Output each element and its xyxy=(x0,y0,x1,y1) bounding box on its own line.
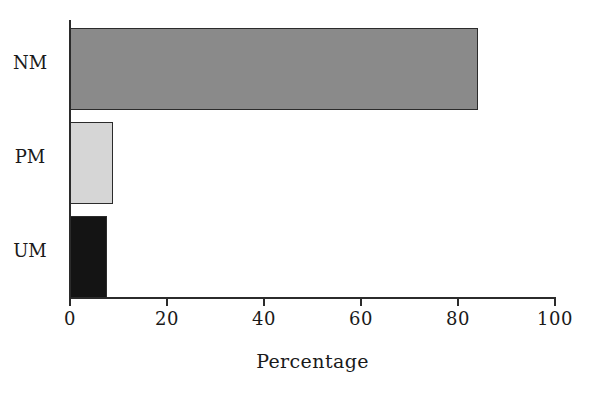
x-tick-80 xyxy=(457,299,459,306)
bar-pm xyxy=(70,122,113,204)
x-tick-20 xyxy=(166,299,168,306)
x-tick-0 xyxy=(69,299,71,306)
y-tick-label-pm: PM xyxy=(0,146,60,167)
y-tick-label-nm: NM xyxy=(0,52,60,73)
x-tick-label-20: 20 xyxy=(137,308,197,329)
bar-chart: NM PM UM 020406080100 Percentage xyxy=(0,0,596,397)
x-tick-label-0: 0 xyxy=(40,308,100,329)
x-axis-title: Percentage xyxy=(69,350,556,372)
x-tick-60 xyxy=(360,299,362,306)
x-tick-label-80: 80 xyxy=(428,308,488,329)
x-tick-100 xyxy=(554,299,556,306)
y-tick-label-um: UM xyxy=(0,240,60,261)
x-tick-label-60: 60 xyxy=(331,308,391,329)
x-tick-40 xyxy=(263,299,265,306)
bar-nm xyxy=(70,28,478,110)
x-tick-label-100: 100 xyxy=(525,308,585,329)
x-tick-label-40: 40 xyxy=(234,308,294,329)
bar-um xyxy=(70,216,107,298)
plot-area xyxy=(70,20,555,298)
